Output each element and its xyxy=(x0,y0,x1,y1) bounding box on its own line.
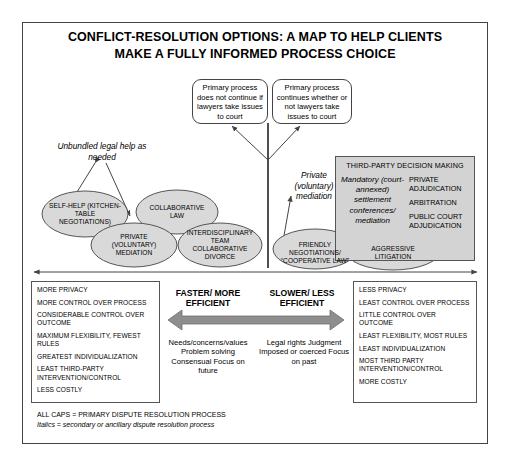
node-label-friendly-negotiations-cooperative-law: FRIENDLY NEGOTIATIONS/ “COOPERATIVE LAW” xyxy=(280,241,350,265)
legend-all-caps: ALL CAPS = PRIMARY DISPUTE RESOLUTION PR… xyxy=(37,410,337,420)
spectrum-traits-right: Legal rights Judgment Imposed or coerced… xyxy=(258,338,350,366)
node-label-aggressive-litigation: AGGRESSIVE LITIGATION xyxy=(360,245,426,261)
label-unbundled-legal-help: Unbundled legal help as needed xyxy=(47,141,157,162)
panel-option-arbitration: ARBITRATION xyxy=(409,198,470,207)
attribute-item: GREATEST INDIVIDUALIZATION xyxy=(37,353,154,361)
attribute-item: MOST THIRD PARTY INTERVENTION/CONTROL xyxy=(359,357,471,373)
attribute-item: LEAST THIRD-PARTY INTERVENTION/CONTROL xyxy=(37,365,154,381)
attribute-item: CONSIDERABLE CONTROL OVER OUTCOME xyxy=(37,311,154,327)
attribute-item: LEAST CONTROL OVER PROCESS xyxy=(359,299,471,307)
attribute-item: MORE PRIVACY xyxy=(37,286,154,294)
spectrum-traits-left: Needs/concerns/values Problem solving Co… xyxy=(162,338,254,376)
legend: ALL CAPS = PRIMARY DISPUTE RESOLUTION PR… xyxy=(37,410,337,430)
panel-option-private-adjudication: PRIVATE ADJUDICATION xyxy=(409,175,470,193)
attribute-item: LEAST INDIVIDUALIZATION xyxy=(359,345,471,353)
attributes-left-box: MORE PRIVACY MORE CONTROL OVER PROCESS C… xyxy=(31,281,160,403)
attribute-item: MAXIMUM FLEXIBILITY, FEWEST RULES xyxy=(37,332,154,348)
node-label-interdisciplinary-team-collaborative-divorce: INTERDISCIPLINARY TEAM COLLABORATIVE DIV… xyxy=(184,229,256,261)
node-label-private-voluntary-mediation: PRIVATE (VOLUNTARY) MEDIATION xyxy=(100,233,168,257)
spectrum-heading-slower: SLOWER/ LESS EFFICIENT xyxy=(262,288,342,308)
attribute-item: MORE CONTROL OVER PROCESS xyxy=(37,299,154,307)
callout-primary-process-does-not-continue: Primary process does not continue if law… xyxy=(192,79,268,124)
panel-title: THIRD-PARTY DECISION MAKING xyxy=(336,161,474,170)
attribute-item: LEAST FLEXIBILITY, MOST RULES xyxy=(359,332,471,340)
page-title: CONFLICT-RESOLUTION OPTIONS: A MAP TO HE… xyxy=(30,29,480,63)
attribute-item: LITTLE CONTROL OVER OUTCOME xyxy=(359,311,471,327)
legend-italics: Italics = secondary or ancillary dispute… xyxy=(37,420,337,430)
panel-option-public-court-adjudication: PUBLIC COURT ADJUDICATION xyxy=(409,212,470,230)
attribute-item: LESS COSTLY xyxy=(37,386,154,394)
panel-options-list: PRIVATE ADJUDICATION ARBITRATION PUBLIC … xyxy=(409,175,470,235)
attribute-item: LESS PRIVACY xyxy=(359,286,471,294)
callout-primary-process-continues: Primary process continues whether or not… xyxy=(272,79,352,124)
node-label-collaborative-law: COLLABORATIVE LAW xyxy=(144,204,210,220)
diagram-canvas: CONFLICT-RESOLUTION OPTIONS: A MAP TO HE… xyxy=(0,0,515,475)
attributes-right-box: LESS PRIVACY LEAST CONTROL OVER PROCESS … xyxy=(353,281,477,403)
panel-mandatory-settlement-label: Mandatory (court-annexed) settlement con… xyxy=(340,175,405,235)
attribute-item: MORE COSTLY xyxy=(359,378,471,386)
title-line-1: CONFLICT-RESOLUTION OPTIONS: A MAP TO HE… xyxy=(30,29,480,46)
title-line-2: MAKE A FULLY INFORMED PROCESS CHOICE xyxy=(30,46,480,63)
node-label-self-help: SELF-HELP (KITCHEN-TABLE NEGOTIATIONS) xyxy=(48,202,122,226)
label-private-voluntary-mediation: Private (voluntary) mediation xyxy=(286,170,342,202)
spectrum-heading-faster: FASTER/ MORE EFFICIENT xyxy=(168,288,248,308)
